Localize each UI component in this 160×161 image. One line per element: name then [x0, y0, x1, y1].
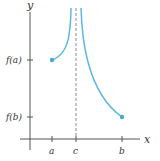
- endpoint-b: [120, 115, 124, 119]
- x-tick-label-a: a: [49, 146, 54, 156]
- curve-left-branch: [52, 8, 71, 60]
- y-axis-label: y: [26, 0, 34, 12]
- y-tick-label-fb: f(b): [5, 112, 23, 122]
- y-tick-label-fa: f(a): [5, 55, 22, 65]
- x-axis-label: x: [144, 133, 151, 146]
- function-graph: y x f(a) f(b) a c b: [0, 0, 160, 161]
- curve-right-branch: [81, 8, 122, 117]
- x-tick-label-b: b: [119, 146, 125, 156]
- x-tick-label-c: c: [73, 146, 78, 156]
- endpoint-a: [50, 58, 54, 62]
